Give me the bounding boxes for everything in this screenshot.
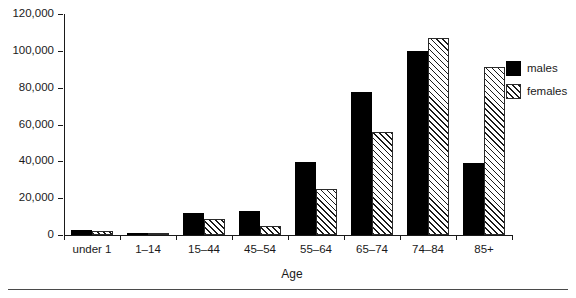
bar-males-55-64 — [295, 162, 316, 235]
y-axis-tick — [58, 198, 63, 199]
x-axis-category-label: 1–14 — [120, 243, 176, 255]
bar-males-65-74 — [351, 92, 372, 235]
bar-females-74-84 — [428, 38, 449, 235]
x-axis-category-label: 65–74 — [344, 243, 400, 255]
y-axis-tick — [58, 161, 63, 162]
bar-females-under-1 — [92, 231, 113, 235]
bar-males-15-44 — [183, 213, 204, 235]
x-axis-tick — [64, 235, 65, 240]
y-axis-tick-label: 60,000 — [19, 119, 54, 131]
y-axis-tick-labels: 020,00040,00060,00080,000100,000120,000 — [0, 14, 64, 235]
plot-area — [64, 14, 512, 235]
x-axis-category-label: 15–44 — [176, 243, 232, 255]
x-axis-tick — [232, 235, 233, 240]
chart-legend: males females — [506, 59, 567, 105]
y-axis-tick-label: 120,000 — [12, 8, 54, 20]
legend-label-males: males — [527, 62, 558, 74]
y-axis-tick-label: 0 — [48, 229, 54, 241]
x-axis-tick — [120, 235, 121, 240]
bar-females-65-74 — [372, 132, 393, 235]
y-axis-tick — [58, 235, 63, 236]
x-axis-tick — [288, 235, 289, 240]
bar-males-45-54 — [239, 211, 260, 235]
bar-females-1-14 — [148, 233, 169, 235]
y-axis-tick-label: 100,000 — [12, 45, 54, 57]
bar-males-1-14 — [127, 233, 148, 235]
legend-item-males: males — [506, 59, 567, 77]
x-axis-tick — [344, 235, 345, 240]
legend-swatch-males-icon — [506, 61, 521, 76]
x-axis-category-label: 85+ — [456, 243, 512, 255]
x-axis-tick — [512, 235, 513, 240]
bar-males-under-1 — [71, 230, 92, 235]
y-axis-tick-label: 80,000 — [19, 82, 54, 94]
bar-females-15-44 — [204, 219, 225, 235]
y-axis-tick — [58, 88, 63, 89]
footer-divider — [8, 289, 568, 290]
y-axis-tick-label: 20,000 — [19, 192, 54, 204]
legend-swatch-females-icon — [506, 84, 521, 99]
bar-females-45-54 — [260, 226, 281, 235]
bar-chart-figure: 020,00040,00060,00080,000100,000120,000 … — [0, 0, 576, 298]
y-axis-tick — [58, 14, 63, 15]
legend-label-females: females — [527, 85, 567, 97]
x-axis-tick — [176, 235, 177, 240]
bar-males-74-84 — [407, 51, 428, 235]
y-axis-tick — [58, 125, 63, 126]
x-axis-title: Age — [232, 267, 352, 281]
bar-males-85- — [463, 163, 484, 235]
x-axis-category-label: under 1 — [64, 243, 120, 255]
x-axis-tick — [456, 235, 457, 240]
legend-item-females: females — [506, 82, 567, 100]
y-axis-tick — [58, 51, 63, 52]
x-axis-category-label: 74–84 — [400, 243, 456, 255]
y-axis-tick-label: 40,000 — [19, 155, 54, 167]
x-axis-category-label: 55–64 — [288, 243, 344, 255]
x-axis-category-label: 45–54 — [232, 243, 288, 255]
x-axis-title-text: Age — [281, 267, 302, 281]
bar-females-55-64 — [316, 189, 337, 235]
bar-females-85- — [484, 67, 505, 235]
x-axis-tick — [400, 235, 401, 240]
